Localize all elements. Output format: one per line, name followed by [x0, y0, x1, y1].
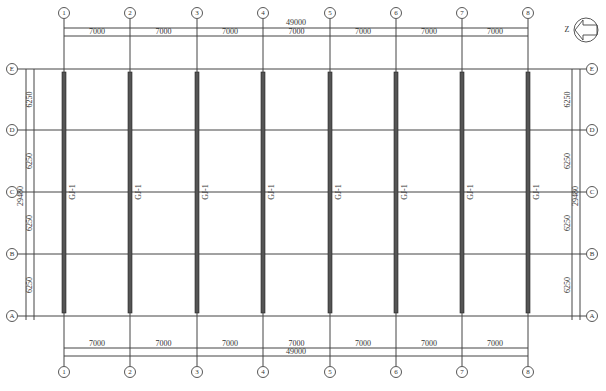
- row-axis-label-right: E: [590, 65, 594, 73]
- row-axis-label-left: E: [10, 65, 14, 73]
- top-bay-dimension-label: 7000: [421, 27, 437, 36]
- beam-gj-1: [62, 72, 66, 313]
- right-bay-dimension-label: 6250: [563, 92, 572, 108]
- right-overall-dimension-label: 29480: [571, 186, 580, 206]
- top-overall-dimension-label: 49000: [286, 18, 306, 27]
- bottom-bay-dimension-label: 7000: [222, 339, 238, 348]
- bottom-bay-dimension-label: 7000: [421, 339, 437, 348]
- top-bay-dimension-label: 7000: [355, 27, 371, 36]
- column-axis-label-top: 3: [195, 9, 199, 17]
- left-bay-dimension-label: 6250: [25, 92, 34, 108]
- column-axis-label-bottom: 4: [261, 368, 265, 376]
- column-axis-label-bottom: 2: [128, 368, 132, 376]
- bottom-bay-dimension-label: 7000: [89, 339, 105, 348]
- column-axis-label-bottom: 3: [195, 368, 199, 376]
- row-axis-label-left: B: [10, 250, 15, 258]
- row-axis-label-left: A: [9, 312, 14, 320]
- north-arrow-icon: [574, 18, 598, 42]
- column-axis-label-top: 2: [128, 9, 132, 17]
- beam-label: GJ-1: [68, 184, 77, 200]
- top-bay-dimension-label: 7000: [289, 27, 305, 36]
- row-axis-label-right: D: [589, 126, 594, 134]
- column-axis-label-top: 8: [526, 9, 530, 17]
- bottom-overall-dimension-label: 49000: [286, 347, 306, 356]
- row-axis-label-left: C: [10, 188, 15, 196]
- left-bay-dimension-label: 6250: [25, 277, 34, 293]
- bottom-bay-dimension-label: 7000: [355, 339, 371, 348]
- beam-label: GJ-1: [466, 184, 475, 200]
- beam-gj-1: [128, 72, 132, 313]
- right-bay-dimension-label: 6250: [563, 277, 572, 293]
- column-axis-label-top: 5: [328, 9, 332, 17]
- right-bay-dimension-label: 6250: [563, 153, 572, 169]
- top-bay-dimension-label: 7000: [156, 27, 172, 36]
- column-axis-label-bottom: 8: [526, 368, 530, 376]
- beam-gj-1: [195, 72, 199, 313]
- row-axis-label-right: A: [589, 312, 594, 320]
- structural-plan: 4900070007000700070007000700070007000700…: [0, 0, 606, 391]
- beam-label: GJ-1: [334, 184, 343, 200]
- drawing-canvas: 4900070007000700070007000700070007000700…: [0, 0, 606, 391]
- left-bay-dimension-label: 6250: [25, 215, 34, 231]
- bottom-bay-dimension-label: 7000: [487, 339, 503, 348]
- bottom-bay-dimension-label: 7000: [156, 339, 172, 348]
- beam-label: GJ-1: [267, 184, 276, 200]
- beam-gj-1: [460, 72, 464, 313]
- column-axis-label-top: 1: [62, 9, 66, 17]
- column-axis-label-bottom: 1: [62, 368, 66, 376]
- column-axis-label-bottom: 6: [394, 368, 398, 376]
- column-axis-label-top: 4: [261, 9, 265, 17]
- beam-gj-1: [526, 72, 530, 313]
- right-bay-dimension-label: 6250: [563, 215, 572, 231]
- beam-label: GJ-1: [532, 184, 541, 200]
- top-bay-dimension-label: 7000: [487, 27, 503, 36]
- row-axis-label-right: B: [590, 250, 595, 258]
- row-axis-label-left: D: [9, 126, 14, 134]
- row-axis-label-right: C: [590, 188, 595, 196]
- column-axis-label-top: 7: [460, 9, 464, 17]
- left-overall-dimension-label: 29480: [16, 186, 25, 206]
- top-bay-dimension-label: 7000: [89, 27, 105, 36]
- beam-label: GJ-1: [400, 184, 409, 200]
- beam-gj-1: [328, 72, 332, 313]
- top-bay-dimension-label: 7000: [222, 27, 238, 36]
- column-axis-label-bottom: 7: [460, 368, 464, 376]
- column-axis-label-top: 6: [394, 9, 398, 17]
- beam-label: GJ-1: [201, 184, 210, 200]
- beam-gj-1: [394, 72, 398, 313]
- beam-gj-1: [261, 72, 265, 313]
- column-axis-label-bottom: 5: [328, 368, 332, 376]
- beam-label: GJ-1: [134, 184, 143, 200]
- left-bay-dimension-label: 6250: [25, 153, 34, 169]
- north-arrow-label: Z: [565, 25, 570, 34]
